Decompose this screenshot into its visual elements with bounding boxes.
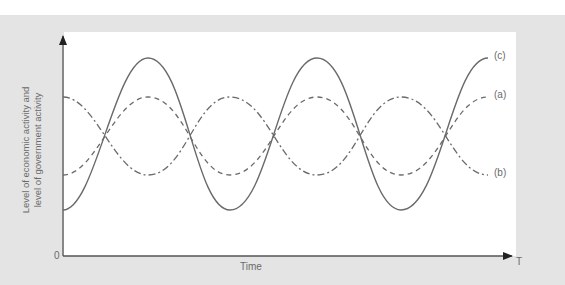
curve-c-label: (c) — [494, 50, 506, 61]
curve-a-label: (a) — [494, 89, 506, 100]
curve-a — [63, 97, 488, 175]
y-axis-label: Level of economic activity and level of … — [20, 87, 44, 214]
y-axis-label-line2: level of government activity — [32, 87, 44, 214]
curve-b — [63, 97, 488, 175]
curve-b-label: (b) — [494, 167, 506, 178]
origin-label: 0 — [54, 250, 60, 261]
x-axis-label: Time — [240, 261, 262, 272]
x-axis-end-label: T — [516, 256, 522, 267]
cycle-diagram — [0, 0, 565, 285]
y-axis-label-line1: Level of economic activity and — [20, 87, 32, 214]
